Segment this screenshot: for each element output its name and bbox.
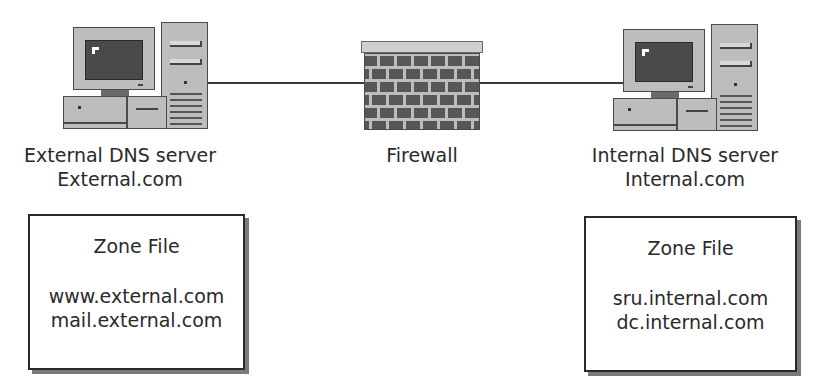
external-dns-server-icon [63, 22, 213, 132]
tower-icon [711, 24, 758, 131]
internal-dns-server-icon [613, 24, 763, 134]
firewall-label-text: Firewall [322, 143, 522, 167]
external-server-name: External DNS server [0, 143, 240, 167]
tower-icon [161, 22, 208, 129]
internal-server-label: Internal DNS server Internal.com [565, 143, 805, 191]
monitor-icon [73, 27, 155, 90]
zone-file-title: Zone File [30, 234, 243, 258]
desktop-base-icon [63, 96, 167, 129]
brick-wall-icon [364, 53, 480, 130]
monitor-icon [623, 29, 705, 92]
zone-entry: www.external.com [30, 284, 243, 308]
firewall-cap [361, 41, 483, 53]
internal-server-name: Internal DNS server [565, 143, 805, 167]
desktop-base-icon [613, 98, 717, 131]
external-zone-file: Zone File www.external.com mail.external… [28, 214, 245, 370]
zone-file-title: Zone File [586, 236, 795, 260]
link-firewall-internal [480, 82, 626, 84]
internal-server-domain: Internal.com [565, 167, 805, 191]
link-external-firewall [208, 82, 364, 84]
zone-entry: dc.internal.com [586, 310, 795, 334]
zone-entry: sru.internal.com [586, 286, 795, 310]
external-server-label: External DNS server External.com [0, 143, 240, 191]
firewall-label: Firewall [322, 143, 522, 167]
external-server-domain: External.com [0, 167, 240, 191]
zone-entry: mail.external.com [30, 308, 243, 332]
internal-zone-file: Zone File sru.internal.com dc.internal.c… [584, 216, 797, 372]
